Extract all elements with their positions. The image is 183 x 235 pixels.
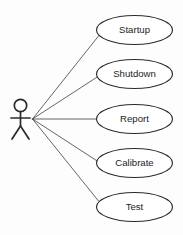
use-case-label-test: Test	[126, 201, 144, 212]
diagram-canvas: Startup Shutdown Report Calibrate Test	[0, 0, 183, 235]
association-lines	[33, 36, 99, 201]
actor-leg-left	[12, 126, 21, 139]
use-case-report[interactable]: Report	[97, 105, 173, 134]
association-line-calibrate[interactable]	[33, 119, 98, 161]
use-case-diagram: Startup Shutdown Report Calibrate Test	[0, 0, 183, 235]
actor-stick-figure[interactable]	[11, 99, 30, 139]
association-line-shutdown[interactable]	[33, 77, 98, 119]
use-case-calibrate[interactable]: Calibrate	[97, 149, 173, 178]
actor-leg-right	[21, 126, 30, 139]
use-case-label-startup: Startup	[119, 24, 150, 35]
association-line-test[interactable]	[33, 119, 99, 201]
use-case-shutdown[interactable]: Shutdown	[97, 60, 173, 89]
use-case-label-calibrate: Calibrate	[115, 157, 153, 168]
use-case-label-shutdown: Shutdown	[113, 68, 156, 79]
association-line-startup[interactable]	[33, 36, 99, 119]
actor-head-icon	[14, 99, 26, 111]
use-case-label-report: Report	[120, 113, 149, 124]
use-case-test[interactable]: Test	[97, 193, 173, 222]
use-case-startup[interactable]: Startup	[97, 16, 173, 45]
